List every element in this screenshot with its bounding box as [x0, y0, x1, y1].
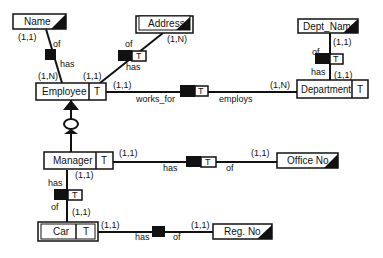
relationship-car-reg[interactable] — [152, 226, 165, 237]
relationship-emp-name[interactable] — [45, 49, 56, 60]
entity-car[interactable]: Car T — [38, 222, 98, 241]
role-label: of — [51, 202, 59, 212]
relationship-tag: T — [198, 86, 204, 96]
role-label: has — [126, 62, 141, 72]
cardinality: (1,1) — [72, 207, 91, 217]
role-label: has — [163, 163, 178, 173]
attribute-label: Address — [148, 18, 185, 29]
relationship-tag: T — [136, 51, 142, 61]
role-label: of — [312, 47, 320, 57]
attribute-address[interactable]: Address — [136, 16, 193, 33]
attribute-label: Name — [24, 16, 51, 27]
entity-label: Employee — [42, 86, 87, 97]
relationship-tag: T — [333, 54, 339, 64]
cardinality: (1,1) — [101, 220, 120, 230]
entity-department[interactable]: Department T — [297, 80, 368, 98]
isa-base-icon — [64, 129, 78, 134]
cardinality: (1,1) — [191, 220, 210, 230]
er-diagram: Name Address Dept_Name Office No. Reg. N… — [0, 0, 383, 258]
role-label: of — [173, 232, 181, 242]
relationship-works-for[interactable]: T — [180, 85, 208, 97]
role-label: employs — [219, 94, 253, 104]
attribute-label: Office No. — [287, 155, 331, 166]
isa-circle-icon — [64, 119, 78, 129]
cardinality: (1,1) — [83, 71, 102, 81]
relationship-tag: T — [205, 157, 211, 167]
role-label: of — [226, 163, 234, 173]
cardinality: (1,1) — [75, 170, 94, 180]
attribute-label: Reg. No — [224, 226, 261, 237]
cardinality: (1,1) — [333, 37, 352, 47]
entity-label: Department — [301, 84, 351, 95]
connector-lines — [46, 29, 330, 232]
role-label: has — [48, 178, 63, 188]
role-label: of — [125, 39, 133, 49]
cardinality: (1,1) — [119, 148, 138, 158]
attribute-office-no[interactable]: Office No. — [277, 153, 338, 168]
entity-manager[interactable]: Manager T — [44, 152, 113, 169]
role-label: has — [135, 232, 150, 242]
cardinality: (1,N) — [38, 71, 58, 81]
relationship-emp-address[interactable]: T — [118, 50, 146, 61]
cardinality: (1,N) — [167, 34, 187, 44]
entity-label: Car — [53, 226, 70, 237]
attribute-label: Dept_Name — [303, 21, 357, 32]
relationship-mgr-office[interactable]: T — [186, 156, 216, 167]
cardinality: (1,1) — [113, 80, 132, 90]
entity-tag: T — [357, 84, 363, 95]
role-label: has — [60, 59, 75, 69]
entity-label: Manager — [53, 155, 93, 166]
attribute-name[interactable]: Name — [13, 14, 66, 29]
entity-tag: T — [83, 226, 89, 237]
entity-employee[interactable]: Employee T — [36, 83, 106, 100]
entity-tag: T — [94, 86, 100, 97]
cardinality: (1,1) — [334, 70, 353, 80]
role-label: of — [53, 39, 61, 49]
isa-arrow-icon — [63, 100, 79, 110]
role-label: works_for — [135, 94, 175, 104]
entity-tag: T — [101, 155, 107, 166]
attribute-dept-name[interactable]: Dept_Name — [298, 19, 358, 33]
relationship-mgr-car[interactable]: T — [54, 189, 82, 200]
cardinality: (1,1) — [18, 32, 37, 42]
cardinality: (1,N) — [270, 80, 290, 90]
relationship-tag: T — [72, 190, 78, 200]
role-label: has — [311, 67, 326, 77]
attribute-reg-no[interactable]: Reg. No — [213, 224, 272, 239]
cardinality: (1,1) — [251, 148, 270, 158]
